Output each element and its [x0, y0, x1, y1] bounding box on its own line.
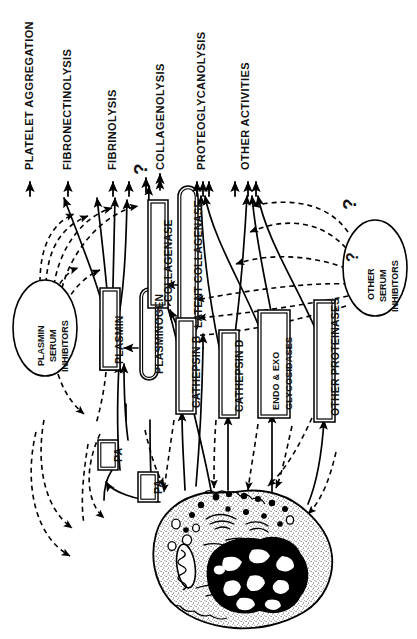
arrow-pa-lower-plasmin — [124, 364, 128, 440]
box-label-endo-exo: ENDO & EXO — [272, 351, 281, 410]
outcome-label-fibrinolysis: FIBRINOLYSIS — [107, 89, 118, 170]
box-label-glycosidases: GLYCOSIDASES — [285, 337, 294, 410]
box-label-latent-collagenase: LATENT COLLAGENASE — [193, 200, 204, 328]
inhibitor-label-other-line1: OTHER — [366, 269, 376, 301]
arrow-cell-otherproteinases — [308, 420, 324, 504]
nucleus — [207, 538, 307, 613]
dash-psi-down — [58, 374, 84, 414]
dash-osi-3 — [236, 257, 346, 268]
box-label-pa-lower: PA — [153, 480, 164, 494]
dash-osi-2 — [250, 223, 346, 248]
dash-right-cell-5 — [164, 420, 174, 492]
box-label-cathepsin-d: CATHEPSIN D — [234, 339, 245, 412]
line-cell-cathepsinb2 — [192, 404, 212, 496]
inhibitor-label-other-line3: INHIBITORS — [390, 260, 400, 312]
box-label-collagenase: COLLAGENASE — [163, 219, 174, 302]
dash-right-cell-1 — [268, 418, 312, 486]
dash-osi-4 — [196, 284, 348, 300]
outcome-label-fibronectinolysis: FIBRONECTINOLYSIS — [62, 49, 73, 170]
inhibitor-label-plasmin-line1: PLASMIN — [36, 326, 46, 367]
box-label-plasminogen: PLASMINOGEN — [154, 294, 165, 374]
question-mark-fibrinolysis-collagenolysis: ? — [131, 163, 150, 175]
dash-right-cell-7 — [308, 452, 336, 514]
outcome-label-platelet-aggregation: PLATELET AGGREGATION — [24, 21, 35, 170]
inhibitor-label-plasmin-line3: INHIBITORS — [60, 320, 70, 372]
box-label-pa-upper: PA — [113, 448, 124, 462]
box-label-cathepsin-b: CATHEPSIN B — [191, 335, 202, 408]
box-label-other-proteinases: OTHER PROTEINASES — [330, 298, 341, 416]
outcome-label-collagenolysis: COLLAGENOLYSIS — [155, 63, 166, 170]
inhibitor-label-other-line2: SERUM — [378, 269, 388, 302]
dash-left-cell-1 — [41, 420, 72, 528]
dash-right-cell-3 — [248, 424, 258, 490]
diagram-canvas: PLATELET AGGREGATION FIBRONECTINOLYSIS F… — [0, 0, 417, 639]
dash-plasmin-down — [96, 372, 106, 424]
question-mark-other-inhibitors-upper: ? — [340, 198, 359, 210]
inhibitor-label-plasmin-line2: SERUM — [48, 329, 58, 362]
dash-psi-down2 — [82, 444, 88, 524]
outcome-label-other-activities: OTHER ACTIVITIES — [240, 62, 251, 170]
dash-left-cell-2 — [31, 432, 70, 556]
macrophage-cell — [153, 491, 332, 629]
dash-right-cell-2 — [276, 426, 292, 488]
box-label-plasmin: PLASMIN — [114, 315, 125, 364]
outcome-label-proteoglycanolysis: PROTEOGLYCANOLYSIS — [196, 32, 207, 170]
dash-right-cell-4 — [214, 420, 216, 488]
dash-psi-hook2 — [66, 270, 100, 302]
question-mark-other-inhibitors-lower: ? — [345, 252, 361, 262]
arrow-cell-cathepsinb — [182, 412, 185, 490]
